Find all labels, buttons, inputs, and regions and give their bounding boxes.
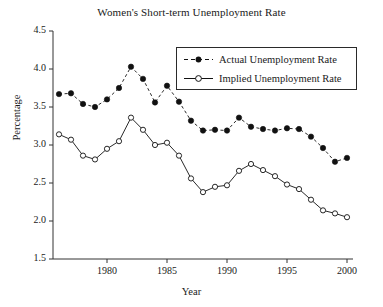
unemployment-rate-chart: Women's Short-term Unemployment Rate Per… [0, 0, 383, 307]
data-point [284, 182, 289, 187]
x-tick-label: 1980 [87, 265, 127, 276]
data-point [116, 139, 121, 144]
legend-label-actual: Actual Unemployment Rate [219, 54, 337, 65]
data-point [164, 83, 169, 88]
data-point [236, 115, 241, 120]
data-point [272, 174, 277, 179]
data-point [200, 190, 205, 195]
data-point [260, 126, 265, 131]
data-point [104, 97, 109, 102]
data-point [140, 76, 145, 81]
data-point [212, 127, 217, 132]
data-point [188, 176, 193, 181]
data-point [332, 211, 337, 216]
legend-item-actual: Actual Unemployment Rate [183, 50, 337, 69]
x-tick-label: 1995 [267, 265, 307, 276]
y-tick-label: 3.5 [16, 100, 46, 111]
data-point [92, 104, 97, 109]
legend-marker-filled-circle-dashed-icon [183, 54, 214, 65]
data-point [272, 128, 277, 133]
data-point [56, 91, 61, 96]
y-tick-label: 3.0 [16, 138, 46, 149]
data-point [128, 64, 133, 69]
y-tick-label: 4.5 [16, 24, 46, 35]
data-point [68, 91, 73, 96]
data-point [200, 128, 205, 133]
data-point [104, 146, 109, 151]
data-point [320, 208, 325, 213]
data-point [248, 124, 253, 129]
y-tick-label: 2.5 [16, 176, 46, 187]
data-point [68, 137, 73, 142]
legend-marker-open-circle-solid-icon [183, 73, 214, 84]
y-tick-label: 2.0 [16, 214, 46, 225]
data-point [56, 132, 61, 137]
data-point [224, 183, 229, 188]
data-point [320, 145, 325, 150]
data-point [80, 153, 85, 158]
x-tick-label: 1985 [147, 265, 187, 276]
data-point [92, 157, 97, 162]
data-point [152, 142, 157, 147]
data-point [296, 126, 301, 131]
data-point [260, 167, 265, 172]
data-point [344, 155, 349, 160]
data-point [344, 215, 349, 220]
data-point [284, 126, 289, 131]
data-point [176, 153, 181, 158]
data-point [152, 100, 157, 105]
chart-legend: Actual Unemployment Rate Implied Unemplo… [176, 47, 357, 90]
data-point [332, 159, 337, 164]
x-tick-label: 1990 [207, 265, 247, 276]
data-point [212, 184, 217, 189]
data-point [176, 99, 181, 104]
x-tick-label: 2000 [327, 265, 367, 276]
data-point [308, 134, 313, 139]
data-point [236, 168, 241, 173]
legend-label-implied: Implied Unemployment Rate [219, 73, 341, 84]
y-tick-label: 4.0 [16, 62, 46, 73]
legend-item-implied: Implied Unemployment Rate [183, 69, 341, 88]
y-tick-label: 1.5 [16, 252, 46, 263]
data-point [140, 127, 145, 132]
data-point [308, 197, 313, 202]
data-point [224, 128, 229, 133]
data-point [296, 186, 301, 191]
data-point [128, 115, 133, 120]
data-point [164, 140, 169, 145]
data-point [248, 161, 253, 166]
data-point [80, 101, 85, 106]
data-point [116, 85, 121, 90]
data-point [188, 118, 193, 123]
